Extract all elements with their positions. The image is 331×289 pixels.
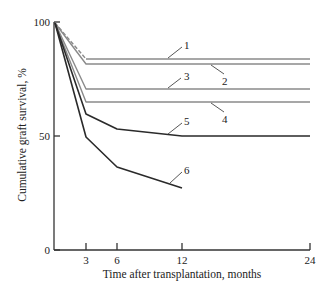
leader-1 xyxy=(168,47,182,58)
series-3-line xyxy=(55,23,310,89)
y-tick-label-50: 50 xyxy=(39,130,51,142)
series-label-5: 5 xyxy=(184,115,190,127)
y-tick-label-100: 100 xyxy=(34,16,51,28)
series-label-3: 3 xyxy=(184,70,190,82)
series-labels xyxy=(168,47,224,183)
leader-6 xyxy=(170,172,182,183)
x-axis-title: Time after transplantation, months xyxy=(103,268,262,281)
y-tick-label-0: 0 xyxy=(45,244,51,256)
series-label-4: 4 xyxy=(222,113,228,125)
series-2-line xyxy=(55,23,310,64)
survival-chart: 100 50 0 3 6 12 24 Time after transplant… xyxy=(0,0,331,289)
leader-4 xyxy=(211,103,224,112)
series-label-1: 1 xyxy=(184,39,190,51)
series-lines xyxy=(55,23,310,188)
x-tick-label-6: 6 xyxy=(114,254,120,266)
series-4-line xyxy=(55,23,310,102)
x-tick-label-3: 3 xyxy=(83,254,89,266)
x-tick-label-24: 24 xyxy=(305,254,317,266)
leader-3 xyxy=(168,78,181,88)
series-label-2: 2 xyxy=(222,75,228,87)
x-tick-label-12: 12 xyxy=(177,254,188,266)
series-5-line xyxy=(55,23,310,136)
leader-2 xyxy=(211,65,224,74)
y-axis-title: Cumulative graft survival, % xyxy=(16,68,29,202)
leader-5 xyxy=(168,123,182,134)
series-label-6: 6 xyxy=(184,164,190,176)
